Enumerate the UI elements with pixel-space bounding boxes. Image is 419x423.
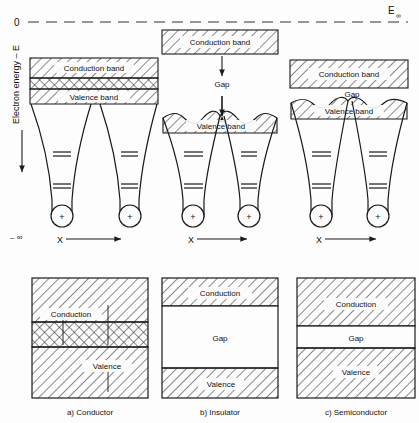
conduction-band-region: Conduction band bbox=[162, 30, 278, 54]
valence-band-region: Valence band bbox=[291, 97, 407, 119]
conduction-band-label: Conduction band bbox=[190, 38, 251, 47]
minus-infinity-label: – ∞ bbox=[10, 233, 23, 242]
gap-region-label: Gap bbox=[348, 334, 364, 343]
valence-region-label: Valence bbox=[342, 368, 371, 377]
valence-region-label: Valence bbox=[207, 380, 236, 389]
conduction-region-label: Conduction bbox=[51, 310, 91, 319]
panel-caption-insulator: b) Insulator bbox=[200, 408, 240, 417]
e-infinity-subscript: ∞ bbox=[396, 12, 401, 19]
valence-band-label: Valence band bbox=[197, 122, 245, 131]
valence-region-label: Valence bbox=[93, 362, 122, 371]
bottom-panel-insulator: Conduction Gap Valence b) Insulator bbox=[162, 278, 278, 417]
nucleus-symbol: + bbox=[59, 212, 64, 222]
conduction-region-label: Conduction bbox=[200, 289, 240, 298]
valence-band-label: Valence band bbox=[70, 93, 118, 102]
e-infinity-label: E bbox=[388, 5, 395, 16]
gap-label: Gap bbox=[214, 80, 230, 89]
nucleus-symbol: + bbox=[246, 212, 251, 222]
x-axis-label: X bbox=[57, 235, 63, 245]
nucleus-symbol: + bbox=[190, 212, 195, 222]
conduction-band-region: Conduction band bbox=[290, 60, 408, 88]
nucleus-symbol: + bbox=[375, 212, 380, 222]
gap-region-label: Gap bbox=[212, 334, 228, 343]
x-axis-label: X bbox=[188, 235, 194, 245]
panel-caption-conductor: a) Conductor bbox=[67, 408, 114, 417]
bottom-panel-conductor: Conduction Valence a) Conductor bbox=[32, 278, 148, 417]
nucleus-symbol: + bbox=[127, 212, 132, 222]
x-axis-label: X bbox=[316, 235, 322, 245]
conduction-region-label: Conduction bbox=[336, 300, 376, 309]
conduction-band-label: Conduction band bbox=[319, 70, 380, 79]
conduction-band-region: Conduction band bbox=[30, 58, 158, 78]
band-structure-figure: 0 E ∞ Electron energy – E – ∞ Conduction… bbox=[0, 0, 419, 423]
valence-band-region: Valence band bbox=[30, 89, 158, 104]
panel-caption-semiconductor: c) Semiconductor bbox=[325, 408, 388, 417]
band-overlap-region bbox=[30, 78, 158, 89]
zero-energy-label: 0 bbox=[14, 17, 20, 28]
nucleus-symbol: + bbox=[318, 212, 323, 222]
valence-band-label: Valence band bbox=[325, 107, 373, 116]
bottom-panel-semiconductor: Conduction Gap Valence c) Semiconductor bbox=[297, 278, 415, 417]
electron-energy-label: Electron energy – E bbox=[11, 45, 21, 124]
conduction-band-label: Conduction band bbox=[64, 64, 125, 73]
